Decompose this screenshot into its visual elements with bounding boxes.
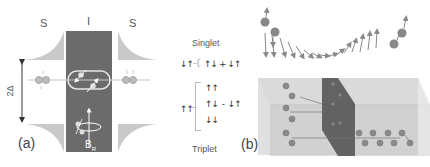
- panel-label-b: (b): [241, 136, 258, 152]
- panel-label-a: (a): [18, 135, 35, 151]
- triplet-left-spins: ↑↑: [180, 104, 193, 114]
- label-i: I: [87, 15, 90, 27]
- spin-spiral: [265, 31, 377, 57]
- gap-label: 2Δ: [5, 85, 15, 96]
- label-s-left: S: [40, 17, 47, 29]
- singlet-bracket: -{: [193, 58, 200, 68]
- field-label: BR: [85, 139, 96, 152]
- triplet-label: Triplet: [192, 144, 217, 154]
- dos-upper-right: [118, 31, 157, 60]
- spiral-end-pair-right: [390, 18, 407, 49]
- spiral-end-pair-left: [261, 10, 280, 45]
- dos-upper-left: [25, 31, 64, 60]
- label-s-right: S: [129, 17, 136, 29]
- singlet-expr: ↑↓ + ↓↑: [204, 59, 240, 69]
- triplet-state-minus1: ↓↓: [205, 115, 218, 125]
- cooper-pair-right: [123, 70, 137, 84]
- singlet-left-spins: ↓↑: [180, 59, 193, 69]
- singlet-label: Singlet: [192, 38, 220, 48]
- triplet-state-1: ↑↑: [205, 83, 218, 93]
- triplet-state-0: ↑↓ - ↓↑: [205, 99, 241, 109]
- dos-lower-right: [118, 124, 157, 152]
- triplet-bracket-tick: [191, 107, 196, 108]
- cooper-pair-left: [36, 71, 50, 89]
